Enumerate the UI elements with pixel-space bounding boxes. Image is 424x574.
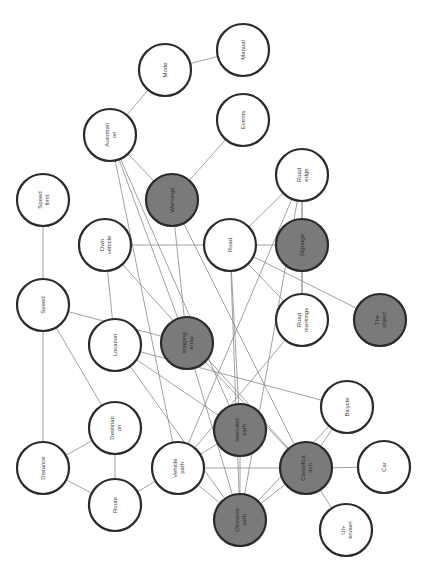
node-speed-limit: Speedlimit xyxy=(17,174,69,226)
node-layer: ModeManualAutomationEventsWarningsRoaded… xyxy=(17,24,410,556)
node-warnings: Warnings xyxy=(146,174,198,226)
node-label: Manual xyxy=(240,40,246,60)
node-route: Route xyxy=(89,479,141,531)
edge-location-bicycle xyxy=(115,345,347,407)
node-automation: Automation xyxy=(84,109,136,161)
node-classification: Classification xyxy=(280,442,332,494)
node-mode: Mode xyxy=(139,44,191,96)
node-the-object: Theobject xyxy=(354,294,406,346)
node-label: Car xyxy=(381,462,387,472)
node-manual: Manual xyxy=(217,24,269,76)
node-label: Distance xyxy=(40,456,46,480)
node-label: Signage xyxy=(299,233,305,256)
node-intended-path: Intendedpath xyxy=(214,404,266,456)
node-label: Location xyxy=(112,334,118,357)
node-unknown: Un-known xyxy=(320,504,372,556)
node-label: Speed xyxy=(40,296,46,313)
node-road: Road xyxy=(204,219,256,271)
node-label: Events xyxy=(240,111,246,129)
node-distance: Distance xyxy=(17,442,69,494)
node-label: Warnings xyxy=(169,187,175,212)
node-bicycle: Bicycle xyxy=(321,381,373,433)
node-vehicle-path: Vehiclepath xyxy=(152,442,204,494)
node-signage: Signage xyxy=(276,219,328,271)
concept-graph: ModeManualAutomationEventsWarningsRoaded… xyxy=(0,0,424,574)
node-label: Roadedge xyxy=(296,168,309,183)
node-imaging-array: Imagingarray xyxy=(161,317,213,369)
node-label: Route xyxy=(112,496,118,513)
node-own-vehicle: Ownvehicle xyxy=(79,219,131,271)
node-destination: Destination xyxy=(89,402,141,454)
node-label: Road xyxy=(227,238,233,252)
node-road-edge: Roadedge xyxy=(276,149,328,201)
node-label: Bicycle xyxy=(344,397,350,417)
node-location: Location xyxy=(89,319,141,371)
node-label: Mode xyxy=(162,62,168,78)
node-car: Car xyxy=(358,441,410,493)
node-events: Events xyxy=(217,94,269,146)
edge-road-intended_path xyxy=(230,245,240,430)
edge-road-obstacle_path xyxy=(230,245,240,520)
node-obstacle-path: Obstaclepath xyxy=(214,494,266,546)
node-road-markings: Roadmarkings xyxy=(276,294,328,346)
node-speed: Speed xyxy=(17,279,69,331)
